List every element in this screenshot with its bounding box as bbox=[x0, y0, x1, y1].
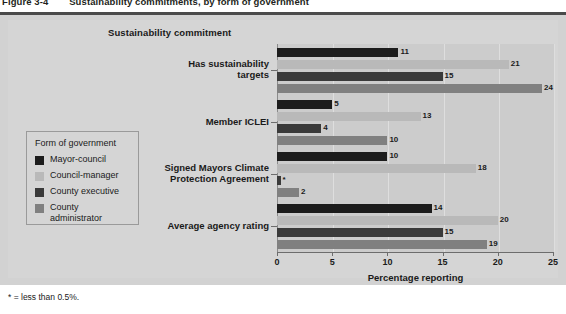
x-tick-5 bbox=[332, 252, 333, 256]
bar bbox=[277, 48, 398, 57]
x-tick-10 bbox=[387, 252, 388, 256]
figure-title: Sustainability commitments, by form of g… bbox=[69, 0, 309, 7]
bar-value-label: 10 bbox=[389, 135, 398, 145]
bar-value-label: 15 bbox=[445, 71, 454, 81]
category-tick bbox=[271, 70, 277, 71]
category-label: Member ICLEI bbox=[99, 116, 269, 127]
bar-value-label: 14 bbox=[434, 203, 443, 213]
bar bbox=[277, 240, 487, 249]
figure-number: Figure 3-4 bbox=[2, 0, 48, 7]
legend-label: Countyadministrator bbox=[50, 202, 102, 223]
bar bbox=[277, 60, 509, 69]
x-tick-label-25: 25 bbox=[548, 257, 558, 267]
x-axis-line bbox=[277, 252, 554, 253]
bar bbox=[277, 112, 421, 121]
bar bbox=[277, 228, 443, 237]
legend-label: Mayor-council bbox=[50, 154, 106, 165]
x-tick-label-20: 20 bbox=[493, 257, 503, 267]
legend-swatch-icon bbox=[35, 188, 44, 197]
gridline-25 bbox=[554, 44, 555, 252]
bar-value-label: 5 bbox=[334, 99, 338, 109]
legend-label: County executive bbox=[50, 186, 119, 197]
category-tick bbox=[271, 122, 277, 123]
bar-value-label: 4 bbox=[323, 123, 327, 133]
x-axis-title: Percentage reporting bbox=[277, 272, 554, 283]
x-tick-label-5: 5 bbox=[330, 257, 335, 267]
bar-value-label: 19 bbox=[489, 239, 498, 249]
bar bbox=[277, 152, 387, 161]
bar bbox=[277, 164, 476, 173]
bar bbox=[277, 188, 299, 197]
bar-value-label: 10 bbox=[389, 151, 398, 161]
bar bbox=[277, 176, 281, 185]
bar-value-label: 20 bbox=[500, 215, 509, 225]
chart-footnote: * = less than 0.5%. bbox=[8, 292, 79, 302]
bar bbox=[277, 72, 443, 81]
category-tick bbox=[271, 174, 277, 175]
chart-column-header: Sustainability commitment bbox=[108, 27, 231, 38]
bar-value-label: * bbox=[283, 175, 286, 185]
x-tick-25 bbox=[553, 252, 554, 256]
bar bbox=[277, 204, 432, 213]
category-label: Average agency rating bbox=[99, 220, 269, 231]
bar bbox=[277, 216, 498, 225]
legend-title: Form of government bbox=[35, 138, 116, 148]
legend-swatch-icon bbox=[35, 204, 44, 213]
category-label: Has sustainabilitytargets bbox=[99, 58, 269, 80]
bar bbox=[277, 84, 542, 93]
bar-value-label: 2 bbox=[301, 187, 305, 197]
category-label: Signed Mayors ClimateProtection Agreemen… bbox=[99, 162, 269, 184]
x-tick-label-0: 0 bbox=[274, 257, 279, 267]
legend-swatch-icon bbox=[35, 172, 44, 181]
x-tick-0 bbox=[277, 252, 278, 256]
bar-value-label: 15 bbox=[445, 227, 454, 237]
bar bbox=[277, 100, 332, 109]
x-tick-15 bbox=[443, 252, 444, 256]
figure-caption: Figure 3-4 Sustainability commitments, b… bbox=[0, 0, 566, 10]
bar-value-label: 21 bbox=[511, 59, 520, 69]
bar-value-label: 13 bbox=[423, 111, 432, 121]
bar-value-label: 18 bbox=[478, 163, 487, 173]
bar-value-label: 24 bbox=[544, 83, 553, 93]
x-tick-label-15: 15 bbox=[438, 257, 448, 267]
x-tick-20 bbox=[498, 252, 499, 256]
legend-swatch-icon bbox=[35, 156, 44, 165]
bar-value-label: 11 bbox=[400, 47, 408, 57]
x-tick-label-10: 10 bbox=[382, 257, 392, 267]
category-tick bbox=[271, 226, 277, 227]
bar bbox=[277, 136, 387, 145]
bar bbox=[277, 124, 321, 133]
